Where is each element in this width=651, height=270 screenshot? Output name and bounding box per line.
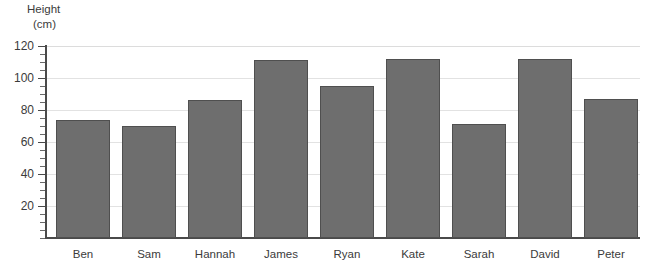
y-axis-tick-label: 120 [0, 40, 34, 52]
x-axis-category-label: Hannah [188, 248, 242, 261]
x-axis-category-label: Kate [386, 248, 440, 261]
x-axis-category-label: James [254, 248, 308, 261]
bar [452, 124, 506, 238]
bar [518, 59, 572, 238]
x-axis-category-label: Sam [122, 248, 176, 261]
bar [254, 60, 308, 238]
y-axis-tick-label: 20 [0, 200, 34, 212]
bars [46, 46, 640, 238]
bar [320, 86, 374, 238]
y-axis-tick-label: 40 [0, 168, 34, 180]
y-axis-title-line2: (cm) [27, 17, 60, 32]
bar [584, 99, 638, 238]
y-axis-tick-label: 60 [0, 136, 34, 148]
y-axis-tick-label: 100 [0, 72, 34, 84]
x-axis-category-label: Ben [56, 248, 110, 261]
x-axis-category-label: Ryan [320, 248, 374, 261]
bar [386, 59, 440, 238]
y-axis-tick-label: 80 [0, 104, 34, 116]
bar-chart: Height (cm) 12010080604020 BenSamHannahJ… [0, 0, 651, 270]
y-axis-title-line1: Height [27, 3, 60, 15]
bar [188, 100, 242, 238]
x-axis-category-label: Peter [584, 248, 638, 261]
bar [56, 120, 110, 238]
y-axis-title: Height (cm) [27, 2, 60, 32]
bar [122, 126, 176, 238]
x-axis-category-label: Sarah [452, 248, 506, 261]
x-axis-category-label: David [518, 248, 572, 261]
